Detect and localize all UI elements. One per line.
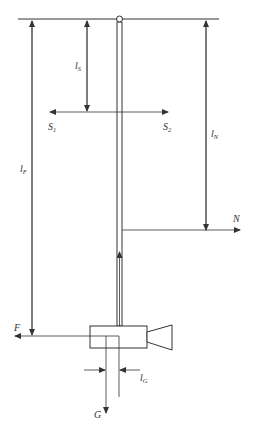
s2-label: S2 xyxy=(163,121,172,133)
g-label: G xyxy=(94,409,101,420)
f-label: F xyxy=(13,322,21,333)
camera-body xyxy=(90,326,147,348)
ls-label: lS xyxy=(75,60,82,72)
lf-label: lF xyxy=(20,163,28,175)
diagram-canvas: lS S1 S2 lF lN N F lG G xyxy=(0,0,254,431)
ln-label: lN xyxy=(211,128,219,140)
pole-top-joint xyxy=(117,16,123,22)
camera-lens xyxy=(147,325,172,350)
n-label: N xyxy=(232,213,241,224)
lg-label: lG xyxy=(140,372,148,384)
s1-label: S1 xyxy=(48,121,56,133)
